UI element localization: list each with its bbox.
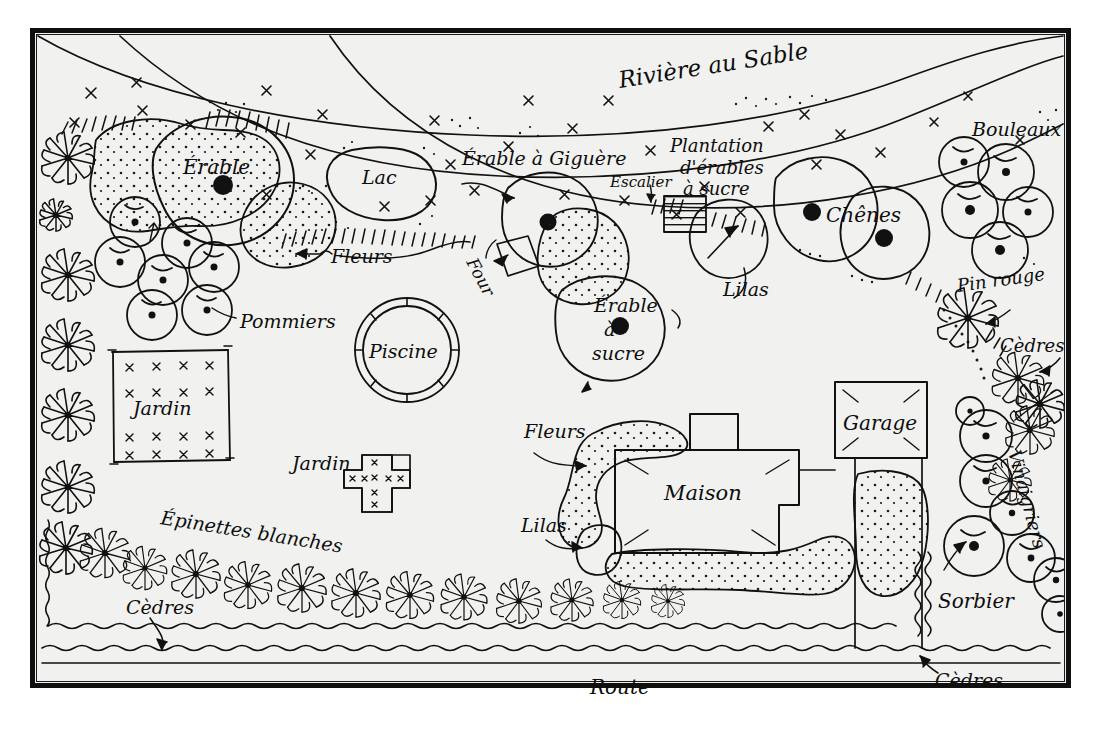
label-maison: Maison (663, 481, 742, 505)
label-fleurs-maison: Fleurs (523, 420, 586, 442)
label-lac: Lac (361, 166, 397, 188)
trees-bouleaux (939, 137, 1053, 278)
label-chenes: Chênes (826, 203, 901, 227)
planting-beds-house (558, 421, 928, 596)
label-cedres-gauche: Cèdres (126, 596, 194, 618)
label-bouleaux: Bouleaux (971, 118, 1062, 140)
label-garage: Garage (843, 411, 917, 435)
label-erable-sucre-1: Érable (593, 294, 658, 316)
leader-line-cedres-right (1040, 358, 1060, 376)
cedar-column-left (40, 132, 95, 574)
label-jardin-croix: Jardin (288, 452, 351, 474)
label-lilas-maison: Lilas (520, 514, 567, 536)
leader-line-cedres-left (150, 618, 167, 650)
label-sorbier: Sorbier (938, 589, 1015, 613)
four-oven (486, 236, 539, 276)
label-riviere: Rivière au Sable (616, 37, 810, 93)
label-erable-sucre-2: à (604, 318, 615, 340)
jardin-cross-plot (344, 455, 410, 512)
label-plantation-2: d'érables (680, 157, 764, 178)
label-plantation-1: Plantation (669, 135, 764, 156)
label-erable-sucre-3: sucre (592, 342, 645, 364)
label-plantation-3: à sucre (683, 178, 750, 199)
site-plan-image: Rivière au Sable Lac Érable Fleurs Pommi… (0, 0, 1101, 736)
label-erable: Érable (182, 155, 250, 179)
label-epinettes: Épinettes blanches (158, 506, 344, 557)
label-route: Route (589, 675, 650, 699)
label-lilas-haut: Lilas (722, 278, 769, 300)
label-escalier: Escalier (609, 173, 672, 191)
label-cedres-droite: Cèdres (1000, 335, 1064, 356)
label-pommiers: Pommiers (239, 310, 336, 332)
site-plan-drawing: Rivière au Sable Lac Érable Fleurs Pommi… (0, 0, 1101, 736)
label-jardin-carre: Jardin (129, 397, 192, 419)
label-fleurs-haut: Fleurs (330, 245, 393, 267)
label-cedres-bas-droite: Cèdres (935, 669, 1003, 691)
label-pin-rouge: Pin rouge (955, 263, 1046, 296)
label-erable-giguere: Érable à Giguère (461, 147, 626, 169)
shrub-bed-center (538, 208, 629, 304)
label-piscine: Piscine (368, 340, 438, 362)
